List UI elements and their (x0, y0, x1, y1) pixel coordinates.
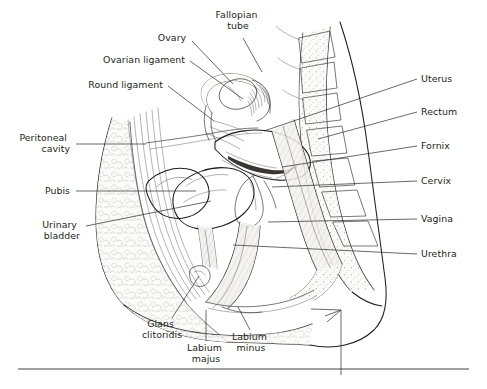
label-labium-majus: Labium majus (187, 342, 225, 364)
label-cervix: Cervix (421, 175, 452, 186)
label-glans-clitoridis: Glans clitoridis (142, 318, 182, 340)
label-round-ligament: Round ligament (88, 79, 163, 90)
label-urethra: Urethra (421, 248, 457, 259)
label-labium-minus: Labium minus (232, 331, 270, 353)
label-ovary: Ovary (158, 32, 187, 43)
label-fornix: Fornix (421, 140, 450, 151)
label-rectum: Rectum (421, 106, 457, 117)
label-pubis: Pubis (45, 185, 70, 196)
anatomy-figure: Fallopian tube Ovary Ovarian ligament Ro… (0, 0, 487, 389)
label-urinary-bladder: Urinary bladder (42, 219, 80, 241)
label-uterus: Uterus (421, 73, 452, 84)
label-vagina: Vagina (421, 213, 453, 224)
label-ovarian-ligament: Ovarian ligament (103, 54, 185, 65)
